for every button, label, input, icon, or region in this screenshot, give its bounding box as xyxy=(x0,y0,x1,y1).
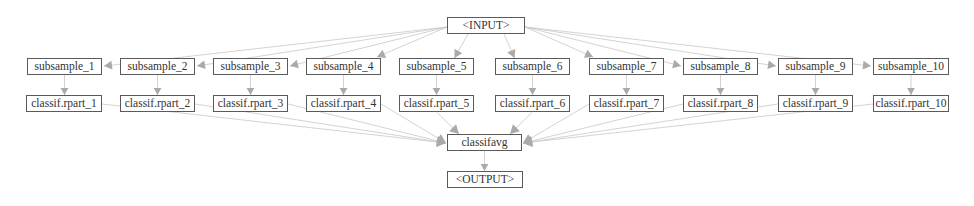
pipeline-graph: <INPUT> subsample_1 subsample_2 subsampl… xyxy=(0,0,974,206)
subsample-node-4[interactable]: subsample_4 xyxy=(306,58,381,75)
arrowhead-icon xyxy=(529,88,537,95)
learner-node-9[interactable]: classif.rpart_9 xyxy=(778,95,853,112)
learner-node-7[interactable]: classif.rpart_7 xyxy=(589,95,664,112)
arrowhead-icon xyxy=(61,88,69,95)
subsample-node-9[interactable]: subsample_9 xyxy=(778,58,853,75)
arrowhead-icon xyxy=(455,49,463,58)
subsample-node-2[interactable]: subsample_2 xyxy=(120,58,195,75)
learner-node-1[interactable]: classif.rpart_1 xyxy=(26,95,102,112)
arrowhead-icon xyxy=(340,88,348,95)
output-node[interactable]: <OUTPUT> xyxy=(447,171,523,188)
arrowhead-icon xyxy=(154,88,162,95)
arrowhead-icon xyxy=(197,60,206,69)
aggregator-node[interactable]: classifavg xyxy=(447,134,522,151)
learner-node-8[interactable]: classif.rpart_8 xyxy=(683,95,758,112)
subsample-node-7[interactable]: subsample_7 xyxy=(589,58,664,75)
arrowhead-icon xyxy=(672,60,681,69)
arrowhead-icon xyxy=(623,88,631,95)
learner-node-5[interactable]: classif.rpart_5 xyxy=(399,95,474,112)
subsample-node-1[interactable]: subsample_1 xyxy=(27,58,102,75)
arrowhead-icon xyxy=(767,60,776,69)
subsample-node-10[interactable]: subsample_10 xyxy=(873,58,949,75)
subsample-node-5[interactable]: subsample_5 xyxy=(399,58,474,75)
arrowhead-icon xyxy=(104,61,112,70)
subsample-node-6[interactable]: subsample_6 xyxy=(495,58,570,75)
arrowhead-icon xyxy=(247,88,255,95)
subsample-node-3[interactable]: subsample_3 xyxy=(213,58,288,75)
learner-node-2[interactable]: classif.rpart_2 xyxy=(120,95,195,112)
learner-node-3[interactable]: classif.rpart_3 xyxy=(213,95,288,112)
arrowhead-icon xyxy=(481,164,489,171)
subsample-node-8[interactable]: subsample_8 xyxy=(683,58,758,75)
arrowhead-icon xyxy=(433,88,441,95)
learner-node-4[interactable]: classif.rpart_4 xyxy=(306,95,381,112)
arrowhead-icon xyxy=(436,134,446,143)
arrowhead-icon xyxy=(812,88,820,95)
learner-node-10[interactable]: classif.rpart_10 xyxy=(873,95,949,112)
arrowhead-icon xyxy=(717,88,725,95)
arrowhead-icon xyxy=(863,61,871,70)
arrowhead-icon xyxy=(907,88,915,95)
learner-node-6[interactable]: classif.rpart_6 xyxy=(495,95,570,112)
arrowhead-icon xyxy=(290,60,299,69)
edge-line xyxy=(525,27,593,57)
input-node[interactable]: <INPUT> xyxy=(447,17,525,34)
